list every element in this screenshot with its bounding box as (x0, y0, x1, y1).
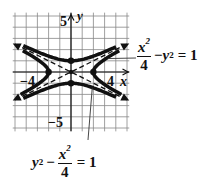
x-tick-4: 4 (107, 75, 114, 89)
fraction: x2 4 (137, 36, 151, 74)
y-axis-label: y (77, 9, 83, 22)
equation-vertical-hyperbola: y2 − x2 4 = 1 (32, 143, 97, 177)
x-axis-label: x (120, 75, 127, 89)
y-tick-neg5: −5 (48, 116, 63, 130)
equation-horizontal-hyperbola: x2 4 − y2 = 1 (137, 36, 198, 74)
y-tick-5: 5 (60, 15, 67, 29)
x-tick-neg4: −4 (20, 75, 35, 89)
fraction: x2 4 (58, 143, 72, 177)
